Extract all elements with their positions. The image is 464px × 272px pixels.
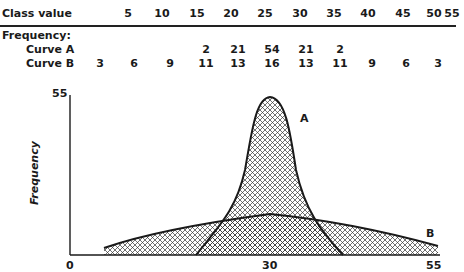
x-tick-0: 0: [66, 259, 74, 272]
curve-a-area: [196, 97, 343, 255]
x-tick-30: 30: [262, 259, 278, 272]
x-tick-55: 55: [426, 259, 441, 272]
curve-b-annotation: B: [426, 227, 434, 240]
y-axis-label: Frequency: [28, 140, 41, 205]
curve-a-annotation: A: [300, 112, 309, 125]
y-tick-55: 55: [52, 87, 67, 100]
